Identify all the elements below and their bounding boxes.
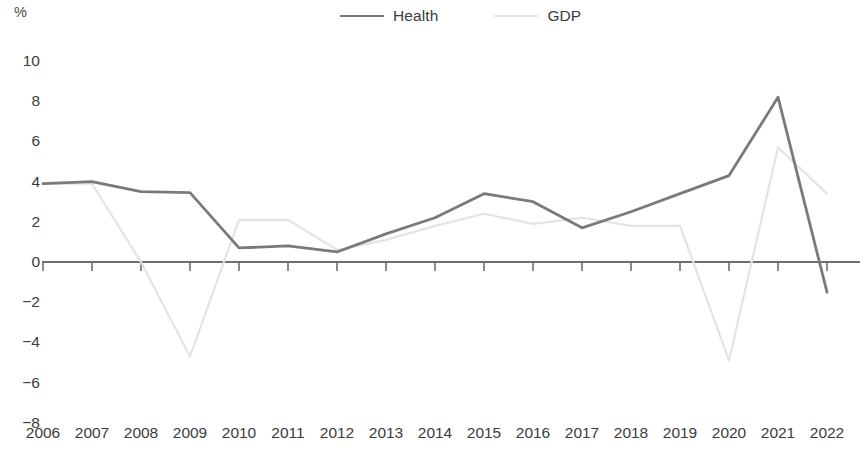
x-axis-tick-marks <box>43 263 827 271</box>
series-line-gdp <box>43 147 827 360</box>
line-chart: % Health GDP 1086420−2−4−6−8 20062007200… <box>0 0 868 451</box>
plot-area <box>0 0 868 451</box>
